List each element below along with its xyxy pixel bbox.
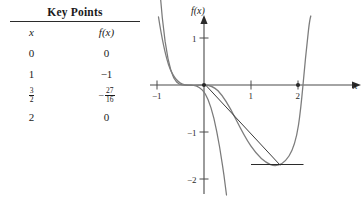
negative-fraction-fx: − 27 16	[98, 87, 114, 104]
x-tick-label-2: 2	[296, 91, 301, 101]
x-tick-label-neg1: −1	[152, 91, 162, 101]
cell-fx: − 27 16	[63, 84, 150, 107]
point-marker-x2	[296, 83, 300, 87]
fraction-denominator: 16	[105, 95, 115, 104]
minus-sign: −	[98, 90, 105, 101]
table-row: 2 0	[0, 107, 150, 128]
table-row: 3 2 − 27 16	[0, 84, 150, 107]
fraction-denominator: 2	[29, 95, 35, 104]
fraction-fx: 27 16	[105, 87, 115, 104]
key-points-table-panel: Key Points x f(x) 0 0 1 −1	[0, 0, 150, 130]
column-header-fx: f(x)	[63, 24, 150, 42]
x-tick-label-1: 1	[249, 91, 254, 101]
cell-x: 0	[0, 42, 63, 63]
cell-fx: −1	[63, 63, 150, 84]
y-tick-label-neg2: −2	[187, 175, 197, 185]
function-curve	[159, 16, 311, 166]
fraction-numerator: 3	[29, 87, 35, 95]
cell-x: 3 2	[0, 84, 63, 107]
y-tick-label-neg1: −1	[187, 128, 197, 138]
tangent-line-at-x1	[207, 86, 281, 165]
fraction-x: 3 2	[29, 87, 35, 104]
key-points-table: x f(x) 0 0 1 −1 3 2	[0, 24, 150, 128]
table-row: 1 −1	[0, 63, 150, 84]
function-plot-svg: f(x) x −1 1 2 1 −1 −2	[140, 0, 364, 206]
key-points-title: Key Points	[0, 0, 150, 18]
cell-x: 1	[0, 63, 63, 84]
curve-left-branch	[157, 0, 227, 195]
graph-panel: f(x) x −1 1 2 1 −1 −2	[140, 0, 364, 206]
table-header-rule	[10, 21, 140, 22]
column-header-x: x	[0, 24, 63, 42]
cell-x: 2	[0, 107, 63, 128]
x-axis-label: x	[352, 80, 358, 91]
y-tick-label-1: 1	[192, 34, 197, 44]
cell-fx: 0	[63, 107, 150, 128]
y-axis-label: f(x)	[191, 5, 206, 17]
point-marker-origin	[202, 83, 206, 87]
cell-fx: 0	[63, 42, 150, 63]
table-row: 0 0	[0, 42, 150, 63]
table-header-row: x f(x)	[0, 24, 150, 42]
figure-root: Key Points x f(x) 0 0 1 −1	[0, 0, 364, 206]
y-axis-arrow-icon	[200, 15, 207, 24]
fraction-numerator: 27	[105, 87, 115, 95]
